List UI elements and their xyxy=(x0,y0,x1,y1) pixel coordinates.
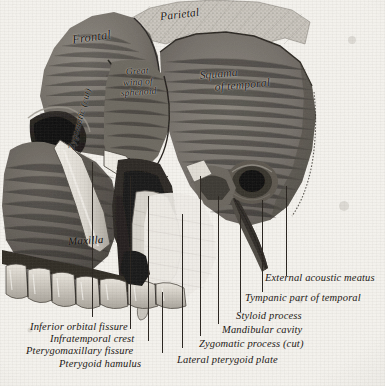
caption-lateral-pterygoid-plate: Lateral pterygoid plate xyxy=(177,354,278,365)
caption-tympanic-part-of-temporal: Tympanic part of temporal xyxy=(245,292,361,303)
label-great-wing-of-sphenoid: Great wing of sphenoid xyxy=(119,65,157,99)
leader-line-tympanic-part xyxy=(262,200,263,292)
leader-line-infratemporal-crest xyxy=(130,176,131,329)
caption-pterygoid-hamulus: Pterygoid hamulus xyxy=(59,358,141,369)
caption-styloid-process: Styloid process xyxy=(236,310,302,321)
caption-external-acoustic-meatus: External acoustic meatus xyxy=(265,272,375,283)
label-maxilla: Maxilla xyxy=(68,233,104,247)
caption-inferior-orbital-fissure: Inferior orbital fissure xyxy=(30,321,128,332)
label-sphenoid-line3: sphenoid xyxy=(120,86,157,98)
leader-line-external-acoustic-meatus xyxy=(286,186,287,276)
leader-line-mandibular-cavity xyxy=(218,196,219,324)
caption-infratemporal-crest: Infratemporal crest xyxy=(50,333,134,344)
leader-line-pterygoid-hamulus xyxy=(162,292,163,353)
leader-line-pterygomaxillary-fissure xyxy=(148,196,149,341)
caption-pterygomaxillary-fissure: Pterygomaxillary fissure xyxy=(26,345,133,356)
leader-line-lateral-pterygoid-plate xyxy=(182,214,183,348)
anatomical-figure: Frontal Parietal Great wing of sphenoid … xyxy=(0,0,385,386)
leader-line-zygomatic-process-cut xyxy=(200,176,201,336)
leader-line-styloid-process xyxy=(240,214,241,312)
caption-mandibular-cavity: Mandibular cavity xyxy=(222,324,302,335)
caption-zygomatic-process-cut: Zygomatic process (cut) xyxy=(199,338,304,349)
